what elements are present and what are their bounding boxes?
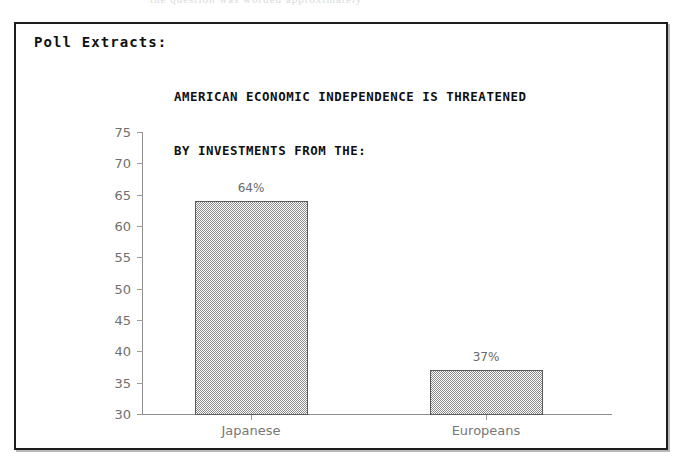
category-label-japanese: Japanese bbox=[220, 423, 280, 438]
y-tick-label-70: 70 bbox=[114, 156, 131, 171]
scan-edge-artifact-text: the question was worded approximately bbox=[150, 0, 362, 5]
y-tick-label-35: 35 bbox=[114, 376, 131, 391]
y-tick-label-45: 45 bbox=[114, 313, 131, 328]
y-tick-label-40: 40 bbox=[114, 344, 131, 359]
bar-value-label-europeans: 37% bbox=[473, 350, 500, 364]
y-tick-label-65: 65 bbox=[114, 188, 131, 203]
poll-extracts-panel: Poll Extracts: AMERICAN ECONOMIC INDEPEN… bbox=[14, 22, 668, 450]
y-tick-label-30: 30 bbox=[114, 407, 131, 422]
y-axis-tick-labels: 75 70 65 60 55 50 45 40 35 30 bbox=[114, 125, 131, 422]
y-tick-label-60: 60 bbox=[114, 219, 131, 234]
bar-group-japanese[interactable]: 64% Japanese bbox=[196, 181, 308, 438]
bar-group-europeans[interactable]: 37% Europeans bbox=[431, 350, 543, 438]
y-tick-label-55: 55 bbox=[114, 250, 131, 265]
bar-japanese[interactable] bbox=[196, 202, 308, 415]
category-label-europeans: Europeans bbox=[452, 423, 521, 438]
bar-chart: 75 70 65 60 55 50 45 40 35 30 64% Japane… bbox=[16, 24, 666, 448]
scan-edge-artifact: the question was worded approximately bbox=[0, 0, 686, 10]
bar-europeans[interactable] bbox=[431, 371, 543, 415]
bar-value-label-japanese: 64% bbox=[238, 181, 265, 195]
y-tick-label-75: 75 bbox=[114, 125, 131, 140]
y-tick-label-50: 50 bbox=[114, 282, 131, 297]
